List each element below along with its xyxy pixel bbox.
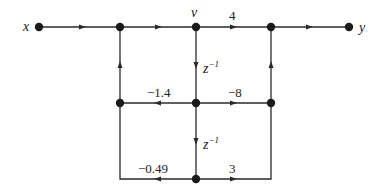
output-label: y [357,20,366,35]
delay1-exp: −1 [208,59,219,69]
node-x [35,23,43,31]
gain-mid-left-label: −1.4 [147,85,171,100]
arrow-right-icon [155,25,162,30]
node-m1 [116,99,124,107]
gain-bot-right-label: 3 [229,161,236,176]
node-v-label: v [191,5,198,20]
arrow-up-icon [118,61,123,68]
gain-bot-left-label: −0.49 [138,161,168,176]
input-label: x [22,19,30,34]
arrow-left-icon [154,177,161,182]
node-m2 [192,99,200,107]
delay2-exp: −1 [208,135,219,145]
arrow-down-icon [194,62,199,69]
arrow-up-icon [269,61,274,68]
signal-flow-graph: x y v 4 z−1 z−1 −1.4 −8 −0.49 3 [0,0,379,191]
node-n1 [116,23,124,31]
arrow-right-icon [230,101,237,106]
nodes [35,23,353,183]
node-n3 [267,23,275,31]
arrow-left-icon [154,101,161,106]
gain-top-label: 4 [229,8,236,23]
arrow-right-icon [230,25,237,30]
arrow-down-icon [194,138,199,145]
node-y [345,23,353,31]
delay1-label: z−1 [202,59,219,76]
delay2-label: z−1 [202,135,219,152]
arrow-right-icon [79,25,86,30]
gain-mid-right-label: −8 [228,85,242,100]
node-b2 [192,175,200,183]
arrow-right-icon [306,25,313,30]
node-m3 [267,99,275,107]
arrow-right-icon [230,177,237,182]
node-v [192,23,200,31]
